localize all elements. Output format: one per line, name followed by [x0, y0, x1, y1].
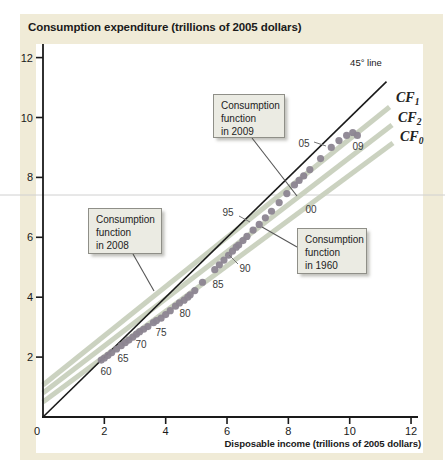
- y-tick-label-10: 10: [21, 112, 33, 124]
- callout-2008-text-line: in 2008: [96, 239, 156, 252]
- data-point: [243, 233, 250, 240]
- figure: 246810120246810126065707580859095000509C…: [0, 0, 445, 472]
- year-label-75: 75: [155, 327, 167, 338]
- x-axis-title: Disposable income (trillions of 2005 dol…: [225, 438, 422, 449]
- y-tick-label-2: 2: [27, 351, 33, 363]
- x-tick-label-12: 12: [405, 425, 417, 437]
- data-point: [328, 144, 335, 151]
- x-tick-label-4: 4: [163, 425, 169, 437]
- x-tick-label-2: 2: [101, 425, 107, 437]
- chart-title: Consumption expenditure (trillions of 20…: [28, 21, 302, 33]
- year-label-65: 65: [117, 353, 129, 364]
- data-point: [283, 190, 290, 197]
- data-point: [191, 287, 198, 294]
- year-label-00: 00: [305, 204, 317, 215]
- year-label-05: 05: [298, 138, 310, 149]
- data-point: [276, 199, 283, 206]
- year-label-60: 60: [100, 366, 112, 377]
- data-point: [300, 172, 307, 179]
- y-tick-label-8: 8: [27, 171, 33, 183]
- x-tick-label-6: 6: [224, 425, 230, 437]
- callout-2008-text-line: Consumption: [96, 213, 156, 226]
- data-point: [317, 155, 324, 162]
- y-tick-label-4: 4: [27, 291, 33, 303]
- y-tick-label-6: 6: [27, 231, 33, 243]
- year-label-90: 90: [239, 263, 251, 274]
- x-tick-label-10: 10: [344, 425, 356, 437]
- data-point: [354, 132, 361, 139]
- data-point: [256, 221, 263, 228]
- year-label-09: 09: [352, 141, 364, 152]
- data-point: [343, 132, 350, 139]
- callout-1960-text-line: Consumption: [305, 233, 361, 246]
- y-tick-label-12: 12: [21, 52, 33, 64]
- data-point: [306, 166, 313, 173]
- year-label-95: 95: [222, 207, 234, 218]
- callout-1960-text-line: in 1960: [305, 259, 361, 272]
- callout-2009: Consumptionfunctionin 2009: [213, 94, 285, 138]
- data-point: [249, 227, 256, 234]
- callout-2009-text-line: Consumption: [221, 99, 279, 112]
- x-tick-label-0: 0: [34, 425, 40, 437]
- data-point: [268, 208, 275, 215]
- data-point: [335, 137, 342, 144]
- callout-2008: Consumptionfunctionin 2008: [88, 208, 162, 254]
- data-point: [199, 279, 206, 286]
- year-label-70: 70: [135, 339, 147, 350]
- callout-2008-text-line: function: [96, 226, 156, 239]
- label-45-degree-line: 45° line: [350, 57, 382, 68]
- year-label-80: 80: [179, 308, 191, 319]
- year-label-85: 85: [212, 279, 224, 290]
- data-point: [262, 214, 269, 221]
- callout-2009-text-line: in 2009: [221, 125, 279, 138]
- callout-1960-text-line: function: [305, 246, 361, 259]
- callout-1960: Consumptionfunctionin 1960: [297, 228, 367, 274]
- x-tick-label-8: 8: [285, 425, 291, 437]
- callout-2009-text-line: function: [221, 112, 279, 125]
- chart-canvas: 246810120246810126065707580859095000509C…: [0, 0, 445, 472]
